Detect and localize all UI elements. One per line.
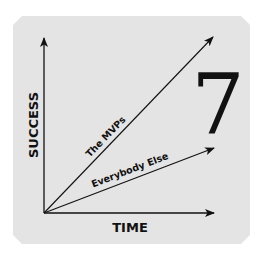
mvps-label: The MVPs <box>83 114 127 159</box>
chapter-number: 7 <box>191 56 244 154</box>
everybody-else-line <box>44 148 214 213</box>
success-time-diagram: SUCCESS TIME The MVPs Everybody Else 7 <box>0 0 265 257</box>
x-axis-label: TIME <box>112 220 148 235</box>
mvps-line <box>44 37 213 213</box>
y-axis-label: SUCCESS <box>26 92 41 158</box>
